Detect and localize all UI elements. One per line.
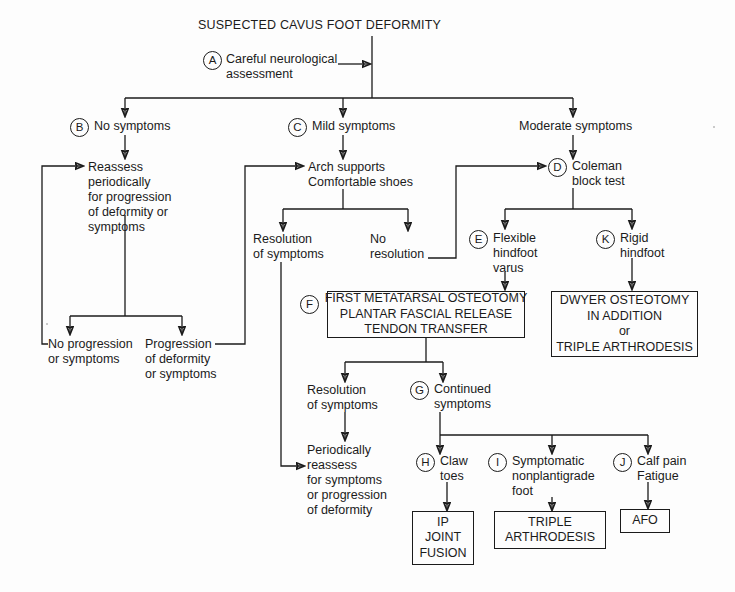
node-marker-g: G xyxy=(410,381,429,400)
treatment-box-afo: AFO xyxy=(620,509,670,533)
node-label-claw-toes: Claw toes xyxy=(440,454,468,484)
node-label-arch-supports: Arch supports Comfortable shoes xyxy=(308,160,413,190)
treatment-box-first-metatarsal-osteotomy: FIRST METATARSAL OSTEOTOMY PLANTAR FASCI… xyxy=(327,291,525,338)
node-label-flexible-hindfoot-varus: Flexible hindfoot varus xyxy=(493,231,537,276)
node-label-a: Careful neurological assessment xyxy=(226,52,337,82)
node-marker-b: B xyxy=(70,118,89,137)
node-label-no-resolution: No resolution xyxy=(370,232,424,262)
node-label-periodically-reassess: Periodically reassess for symptoms or pr… xyxy=(307,443,387,518)
node-label-resolution-of-symptoms-1: Resolution of symptoms xyxy=(253,232,324,262)
scan-artifact xyxy=(46,323,48,325)
node-marker-f: F xyxy=(300,295,319,314)
node-label-calf-pain-fatigue: Calf pain Fatigue xyxy=(637,454,686,484)
node-label-no-progression: No progression or symptoms xyxy=(48,337,133,367)
node-marker-d: D xyxy=(548,158,567,177)
node-label-b: No symptoms xyxy=(94,119,170,134)
diagram-title: SUSPECTED CAVUS FOOT DEFORMITY xyxy=(198,18,441,32)
node-label-reassess-periodically: Reassess periodically for progression of… xyxy=(88,160,171,235)
node-marker-j: J xyxy=(613,453,632,472)
treatment-box-triple-arthrodesis: TRIPLE ARTHRODESIS xyxy=(494,511,606,549)
node-label-c: Mild symptoms xyxy=(312,119,395,134)
treatment-box-ip-joint-fusion: IP JOINT FUSION xyxy=(412,511,474,565)
treatment-box-dwyer-osteotomy: DWYER OSTEOTOMY IN ADDITION or TRIPLE AR… xyxy=(551,291,698,357)
node-marker-h: H xyxy=(416,453,435,472)
node-label-continued-symptoms: Continued symptoms xyxy=(434,382,491,412)
node-marker-e: E xyxy=(469,230,488,249)
node-marker-c: C xyxy=(288,118,307,137)
node-label-rigid-hindfoot: Rigid hindfoot xyxy=(620,231,664,261)
node-marker-i: I xyxy=(488,453,507,472)
flowchart-canvas: SUSPECTED CAVUS FOOT DEFORMITY A Careful… xyxy=(0,0,735,592)
node-marker-a: A xyxy=(203,51,222,70)
scan-artifact xyxy=(713,126,715,128)
node-label-resolution-of-symptoms-2: Resolution of symptoms xyxy=(307,383,378,413)
node-label-progression: Progression of deformity or symptoms xyxy=(145,337,217,382)
node-label-symptomatic-nonplantigrade-foot: Symptomatic nonplantigrade foot xyxy=(512,454,595,499)
node-marker-k: K xyxy=(596,230,615,249)
node-label-coleman-block-test: Coleman block test xyxy=(572,159,625,189)
node-label-moderate-symptoms: Moderate symptoms xyxy=(519,119,632,134)
